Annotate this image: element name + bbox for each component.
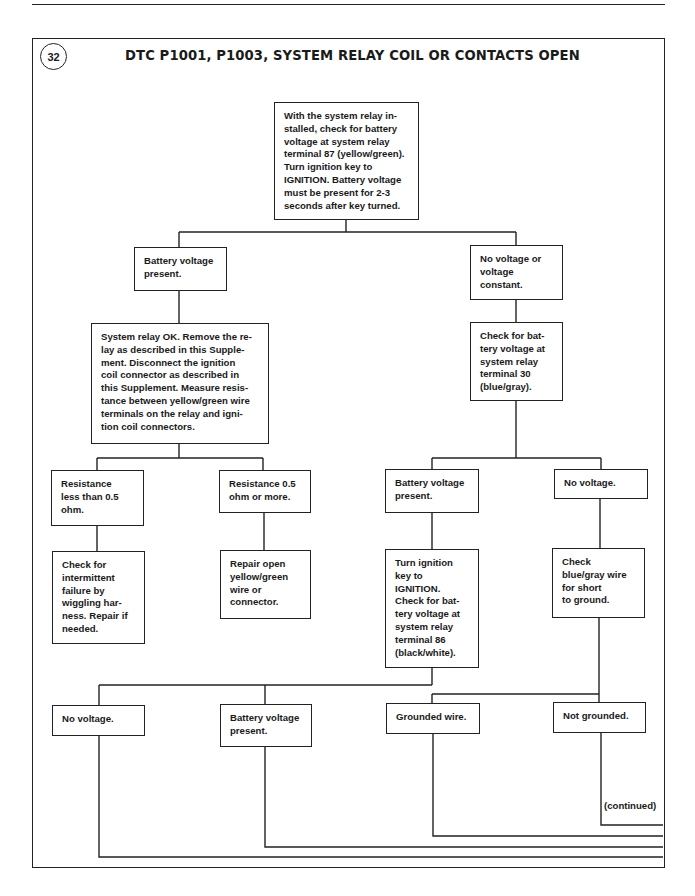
- flow-node-battery-present-2: Battery voltage present.: [385, 469, 479, 513]
- flow-node-check-terminal-30: Check for bat- tery voltage at system re…: [470, 322, 563, 401]
- flow-node-no-voltage-2: No voltage.: [52, 705, 145, 736]
- figure-title: DTC P1001, P1003, SYSTEM RELAY COIL OR C…: [125, 48, 580, 63]
- figure-number-badge: 32: [40, 43, 67, 70]
- flow-node-battery-present-1: Battery voltage present.: [134, 247, 227, 291]
- flow-node-not-grounded: Not grounded.: [553, 702, 646, 733]
- flow-node-grounded-wire: Grounded wire.: [386, 703, 480, 734]
- flow-node-relay-ok-measure: System relay OK. Remove the re- lay as d…: [91, 323, 269, 444]
- flow-node-start: With the system relay in- stalled, check…: [274, 102, 419, 220]
- continued-label: (continued): [604, 800, 656, 811]
- flow-node-no-voltage-1: No voltage.: [554, 469, 648, 499]
- flow-node-resistance-high: Resistance 0.5 ohm or more.: [219, 470, 311, 513]
- flow-node-repair-open-wire: Repair open yellow/green wire or connect…: [220, 550, 311, 619]
- flow-node-resistance-low: Resistance less than 0.5 ohm.: [51, 470, 144, 526]
- flow-node-check-terminal-86: Turn ignition key to IGNITION. Check for…: [385, 549, 479, 668]
- flow-node-battery-present-3: Battery voltage present.: [220, 704, 312, 747]
- flow-node-check-short-ground: Check blue/gray wire for short to ground…: [552, 548, 645, 618]
- flow-node-check-intermittent: Check for intermittent failure by wiggli…: [52, 551, 145, 644]
- flow-node-no-voltage-or-constant: No voltage or voltage constant.: [470, 245, 563, 300]
